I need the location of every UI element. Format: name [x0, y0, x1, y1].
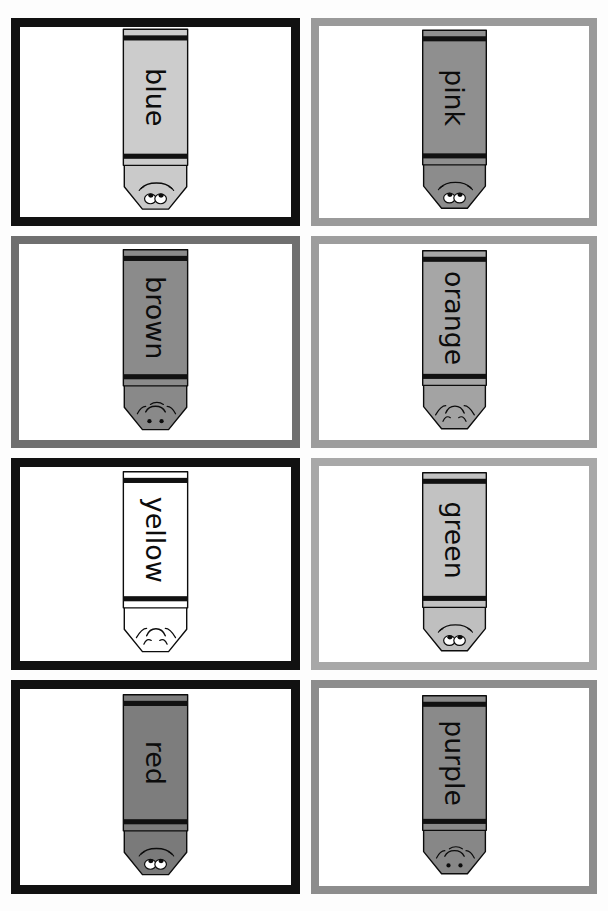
flashcard-red[interactable]: red	[11, 680, 300, 894]
flashcard-brown[interactable]: brown	[11, 236, 300, 448]
crayon-band-near-tip	[123, 154, 187, 159]
color-word-pink: pink	[439, 69, 470, 126]
pupil-left	[148, 193, 153, 197]
flashcard-green[interactable]: green	[311, 458, 597, 670]
crayon-tip	[423, 382, 485, 428]
crayon-illustration: brown	[73, 247, 238, 438]
crayon-illustration: purple	[371, 693, 538, 882]
flashcard-pink[interactable]: pink	[311, 18, 597, 226]
flashcard-inner-orange: orange	[319, 244, 589, 440]
crayon-figure-orange: orange	[328, 253, 580, 431]
flashcard-inner-green: green	[319, 466, 589, 662]
crayon-band-near-tip	[123, 596, 187, 601]
crayon-band-near-tip	[422, 153, 486, 158]
crayon-illustration: blue	[75, 27, 237, 217]
crayon-band-near-end	[422, 256, 486, 261]
flashcard-inner-brown: brown	[19, 244, 292, 440]
crayon-band-near-end	[422, 36, 486, 41]
crayon-band-near-end	[123, 477, 187, 482]
crayon-illustration: yellow	[73, 469, 238, 660]
color-word-red: red	[140, 740, 171, 784]
crayon-band-near-tip	[422, 818, 486, 823]
crayon-band-near-end	[123, 35, 187, 40]
crayon-illustration: red	[72, 692, 239, 883]
crayon-band-near-end	[123, 700, 187, 705]
flashcard-inner-yellow: yellow	[20, 467, 291, 661]
crayon-figure-red: red	[29, 698, 282, 876]
color-word-purple: purple	[439, 720, 470, 806]
crayon-band-near-tip	[422, 373, 486, 378]
crayon-band-near-tip	[123, 819, 187, 824]
color-word-yellow: yellow	[140, 496, 171, 582]
flashcard-yellow[interactable]: yellow	[11, 458, 300, 670]
crayon-band-near-tip	[422, 595, 486, 600]
crayon-figure-pink: pink	[328, 35, 580, 209]
color-word-green: green	[439, 501, 470, 578]
crayon-tip	[124, 605, 186, 652]
color-word-brown: brown	[140, 276, 171, 359]
crayon-figure-blue: blue	[29, 36, 282, 208]
crayon-band-near-end	[123, 255, 187, 260]
crayon-figure-purple: purple	[328, 697, 580, 877]
flashcard-inner-purple: purple	[319, 688, 589, 886]
crayon-figure-yellow: yellow	[29, 476, 282, 652]
crayon-band-near-end	[422, 478, 486, 483]
crayon-band-near-tip	[123, 374, 187, 379]
crayon-figure-brown: brown	[28, 253, 283, 431]
flashcard-inner-pink: pink	[319, 26, 589, 218]
flashcard-purple[interactable]: purple	[311, 680, 597, 894]
flashcard-inner-red: red	[20, 689, 291, 885]
flashcard-sheet: blue pink	[0, 0, 608, 911]
flashcard-orange[interactable]: orange	[311, 236, 597, 448]
flashcard-inner-blue: blue	[20, 27, 291, 217]
color-word-blue: blue	[140, 68, 171, 126]
pupil-right	[158, 193, 163, 197]
crayon-illustration: green	[372, 470, 537, 659]
color-word-orange: orange	[439, 271, 470, 365]
crayon-illustration: orange	[372, 248, 537, 437]
crayon-figure-green: green	[328, 475, 580, 653]
crayon-illustration: pink	[373, 28, 535, 217]
crayon-band-near-end	[422, 701, 486, 706]
flashcard-blue[interactable]: blue	[11, 18, 300, 226]
